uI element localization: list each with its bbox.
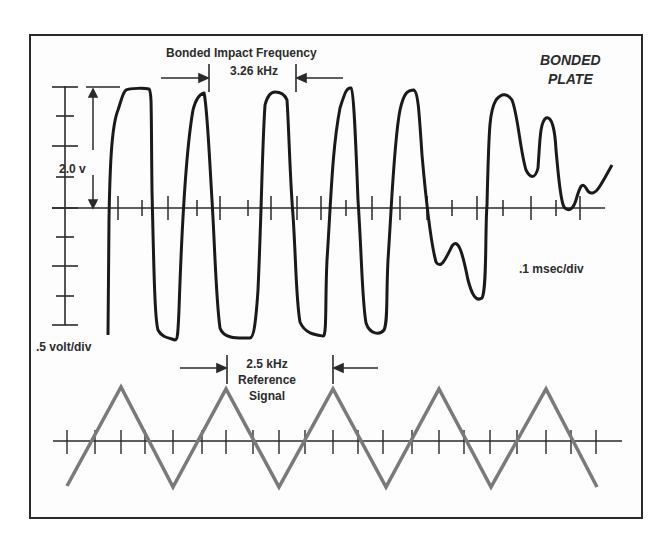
plate-title-line1: BONDED — [540, 51, 601, 70]
reference-frequency-value: 2.5 kHz — [238, 356, 296, 372]
reference-line2: Signal — [238, 388, 296, 404]
time-per-div-label: .1 msec/div — [519, 262, 584, 276]
reference-label: 2.5 kHz Reference Signal — [238, 356, 296, 404]
amplitude-arrow — [86, 87, 120, 208]
bonded-frequency-title: Bonded Impact Frequency — [166, 46, 317, 60]
reference-axis — [53, 430, 622, 454]
amplitude-label: 2.0 v — [59, 162, 86, 176]
volt-per-div-label: .5 volt/div — [36, 340, 91, 354]
plate-title: BONDED PLATE — [540, 51, 601, 89]
bonded-frequency-value: 3.26 kHz — [230, 64, 278, 78]
bonded-impact-trace — [108, 88, 612, 340]
y-axis — [52, 86, 78, 325]
reference-line1: Reference — [238, 372, 296, 388]
reference-signal-trace — [67, 387, 597, 487]
plate-title-line2: PLATE — [540, 70, 601, 89]
